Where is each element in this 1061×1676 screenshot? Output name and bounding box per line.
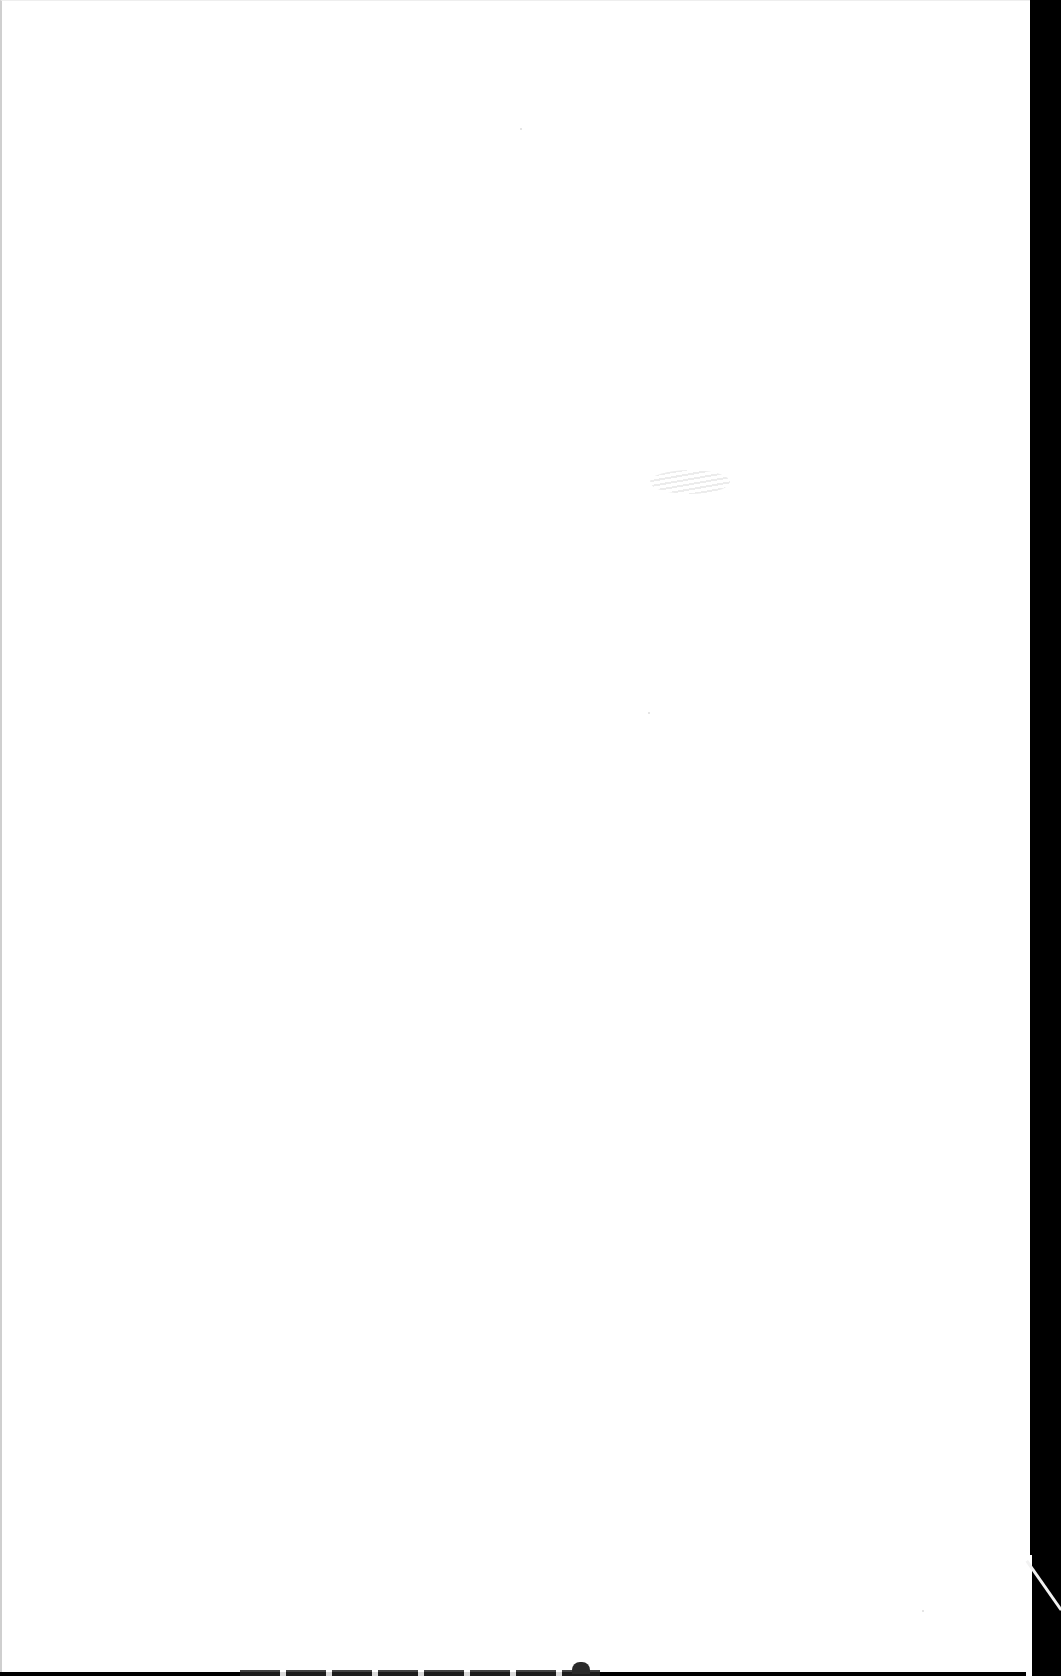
blank-paper-sheet [0, 0, 1030, 1672]
speck [648, 712, 650, 714]
speck [922, 1610, 924, 1612]
scanned-page [0, 0, 1061, 1676]
scan-smudge [650, 470, 730, 494]
speck [520, 128, 522, 130]
bottom-edge-strip [240, 1670, 600, 1676]
paper-edge-notch [1026, 1555, 1032, 1676]
bottom-edge-mark [572, 1662, 590, 1674]
